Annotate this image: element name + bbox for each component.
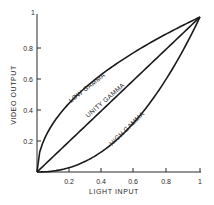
y-tick-0.4: 0.4 [23, 107, 33, 114]
high-gamma-label: HIGH GAMMA [108, 110, 146, 147]
unity-gamma-curve [37, 17, 200, 172]
x-ticks [69, 168, 200, 172]
curves [37, 17, 200, 172]
x-tick-labels: 0.2 0.4 0.6 0.8 1 [64, 178, 202, 185]
x-tick-0.2: 0.2 [64, 178, 74, 185]
x-tick-0.8: 0.8 [161, 178, 171, 185]
y-axis-label: VIDEO OUTPUT [10, 65, 17, 125]
y-tick-labels: 0.2 0.4 0.6 0.8 1 [23, 9, 35, 145]
y-ticks [37, 48, 41, 141]
x-tick-1: 1 [198, 178, 202, 185]
y-tick-0.2: 0.2 [23, 138, 33, 145]
x-tick-0.4: 0.4 [96, 178, 106, 185]
x-axis-label: LIGHT INPUT [89, 188, 139, 195]
y-tick-1: 1 [31, 9, 35, 16]
x-tick-0.6: 0.6 [128, 178, 138, 185]
y-tick-0.8: 0.8 [23, 45, 33, 52]
gamma-chart: 0.2 0.4 0.6 0.8 1 0.2 0.4 0.6 0.8 1 LIGH… [0, 0, 214, 205]
y-tick-0.6: 0.6 [23, 76, 33, 83]
